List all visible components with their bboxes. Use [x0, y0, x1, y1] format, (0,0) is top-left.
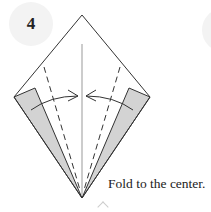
left-flap	[14, 88, 82, 198]
instruction-caption: Fold to the center.	[108, 176, 205, 192]
